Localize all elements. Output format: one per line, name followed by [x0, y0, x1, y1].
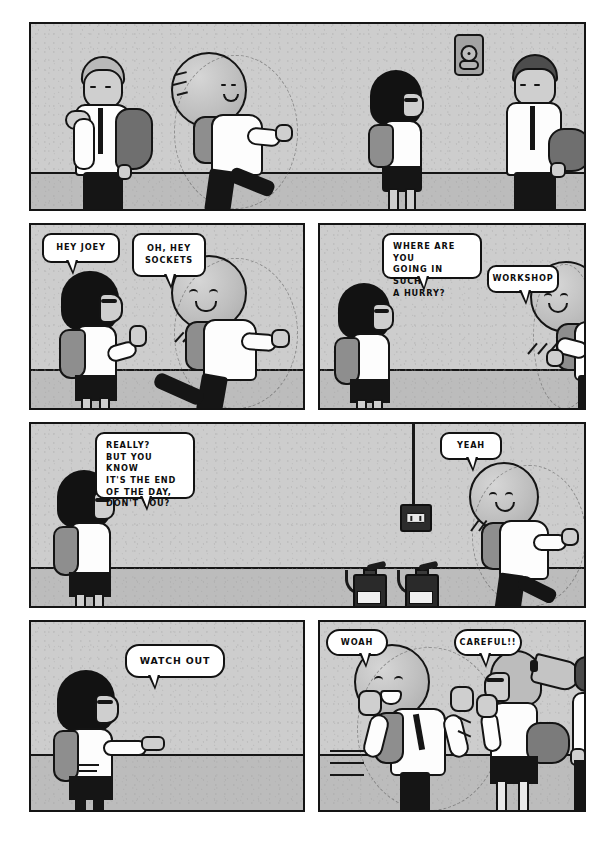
ball-head-eye [560, 293, 568, 298]
character-bob-girl [334, 283, 406, 410]
extinguisher-label-icon [409, 591, 433, 603]
fire-alarm-icon [454, 34, 484, 76]
man-hand [550, 162, 566, 178]
ball-head-eye [489, 492, 497, 497]
ball-head-trousers [400, 772, 430, 812]
passerby-trousers [574, 760, 586, 812]
character-ball-head-boy [171, 255, 301, 410]
comic-panel-3: WHERE ARE YOU GOING IN SUCH A HURRY? WOR… [318, 223, 586, 410]
ball-head-eye [505, 492, 513, 497]
ball-head-fist [546, 349, 564, 367]
ball-head-eye [221, 84, 226, 86]
fire-extinguisher [353, 564, 383, 608]
character-ball-head-boy [171, 52, 301, 211]
boy-trousers [83, 172, 123, 211]
ponytail-girl-glasses [486, 678, 504, 682]
comic-page: HEY JOEY OH, HEY SOCKETS [0, 0, 614, 854]
character-ball-head-boy [469, 462, 586, 608]
comic-panel-4: REALLY? BUT YOU KNOW IT'S THE END OF THE… [29, 422, 586, 608]
man-eye [520, 84, 526, 86]
character-passerby-arm [570, 656, 586, 812]
man-head [514, 68, 556, 106]
ball-head-raised-hand [450, 686, 474, 712]
bob-girl-glasses [374, 309, 389, 313]
motion-line [77, 764, 99, 766]
bob-girl-face [372, 303, 394, 331]
boy-head [83, 69, 123, 109]
boy-eye [90, 86, 96, 88]
extinguisher-label-icon [357, 591, 381, 603]
bob-girl-backpack [53, 730, 79, 782]
speech-bubble-where-are-you-going: WHERE ARE YOU GOING IN SUCH A HURRY? [382, 233, 482, 279]
motion-line [79, 770, 97, 772]
bob-girl-glasses [101, 299, 117, 303]
character-bob-girl-pointing [53, 670, 173, 812]
ball-head-eye [374, 676, 383, 681]
ponytail-tie [530, 660, 538, 672]
bob-girl-leg [356, 399, 367, 410]
ball-head-smile [548, 303, 568, 313]
ball-head-trousers [578, 375, 586, 410]
boy-tie [98, 108, 103, 154]
ball-head-fist [561, 528, 579, 546]
passerby-hair [574, 656, 586, 692]
ball-head-raised-hand [358, 690, 382, 716]
alarm-base-icon [459, 60, 479, 70]
speech-bubble-hey-joey: HEY JOEY [42, 233, 120, 263]
ball-head-eye [209, 289, 218, 294]
bob-girl-leg [75, 796, 86, 812]
motion-line [330, 774, 364, 776]
ball-head-smile [195, 301, 217, 312]
man-eye [534, 84, 540, 86]
bob-girl-face [402, 92, 424, 118]
bob-girl-waving-hand [129, 325, 147, 347]
man-tie [530, 106, 535, 150]
motion-line [330, 750, 364, 752]
hanging-cable [412, 422, 415, 506]
ball-head-smile [495, 502, 515, 512]
boy-eye [105, 86, 111, 88]
ponytail-girl-defensive-hand [476, 694, 498, 718]
character-man-with-bag [496, 54, 586, 211]
character-walking-boy [63, 56, 153, 211]
speech-bubble-woah: WOAH [326, 629, 388, 656]
bob-girl-leg [93, 796, 104, 812]
man-trousers [514, 172, 556, 211]
character-bob-girl [57, 271, 153, 410]
comic-panel-6: WOAH CAREFUL!! [318, 620, 586, 812]
outlet-plate-icon [406, 513, 425, 523]
ball-head-eye [231, 84, 236, 86]
bob-girl-pointing-hand [141, 736, 165, 751]
comic-panel-2: HEY JOEY OH, HEY SOCKETS [29, 223, 305, 410]
ball-head-eye [544, 293, 552, 298]
bob-girl-leg [405, 188, 416, 211]
bob-girl-glasses [97, 700, 113, 704]
ball-head-mouth [223, 94, 239, 102]
ponytail-girl-leg [518, 780, 529, 812]
comic-panel-5: WATCH OUT [29, 620, 305, 812]
bob-girl-backpack [334, 337, 360, 385]
ponytail-girl-leg [496, 780, 507, 812]
boy-arm [73, 118, 95, 170]
bob-girl-leg [99, 397, 110, 410]
ball-head-open-mouth [380, 690, 402, 705]
bob-girl-face [95, 694, 119, 724]
bob-girl-backpack [368, 124, 394, 168]
bob-girl-leg [75, 593, 86, 608]
bob-girl-leg [81, 397, 92, 410]
bob-girl-backpack [59, 329, 86, 379]
boy-shoulder-bag [115, 108, 153, 170]
ball-head-eye [394, 676, 403, 681]
bob-girl-leg [372, 399, 383, 410]
ball-head-fist [275, 124, 293, 142]
motion-line [330, 762, 364, 764]
ball-head-eye [189, 289, 198, 294]
bob-girl-glasses [404, 98, 418, 102]
speech-bubble-really: REALLY? BUT YOU KNOW IT'S THE END OF THE… [95, 432, 195, 499]
bob-girl-leg [93, 593, 104, 608]
ball-head-fist [271, 329, 290, 348]
bob-girl-backpack [53, 526, 79, 576]
speech-bubble-oh-hey-sockets: OH, HEY SOCKETS [132, 233, 206, 277]
boy-hand [117, 164, 132, 180]
hanging-outlet-box [400, 504, 432, 532]
